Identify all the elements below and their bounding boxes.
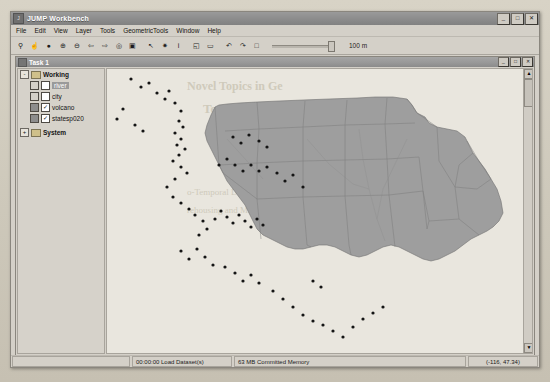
previous-view-icon[interactable]: ⇦ [84, 39, 97, 52]
zoom-slider[interactable] [272, 41, 334, 50]
states-polygon-layer [205, 97, 503, 261]
task-close-button[interactable]: ✕ [522, 57, 533, 67]
redo-icon[interactable]: ↷ [236, 39, 249, 52]
scroll-thumb[interactable] [524, 79, 533, 107]
menu-geometrictools[interactable]: GeometricTools [122, 27, 169, 34]
app-icon: J [13, 13, 24, 24]
zoom-slider-track [272, 45, 334, 48]
layer-checkbox[interactable]: ✓ [41, 103, 50, 112]
next-view-icon[interactable]: ⇨ [98, 39, 111, 52]
menu-window[interactable]: Window [175, 27, 200, 34]
zoom-slider-knob[interactable] [328, 41, 335, 52]
layer-item-volcano[interactable]: ✓ volcano [18, 102, 104, 113]
menu-file[interactable]: File [15, 27, 27, 34]
task-titlebar[interactable]: Task 1 _ □ ✕ [16, 57, 534, 67]
expander-icon[interactable]: + [20, 128, 29, 137]
expander-icon[interactable]: - [20, 70, 29, 79]
tree-category-label: Working [43, 71, 69, 78]
zoom-to-layer-icon[interactable]: ▣ [126, 39, 139, 52]
task-body: - Working river city ✓ volc [16, 67, 534, 355]
layer-item-city[interactable]: city [18, 91, 104, 102]
map-graphic[interactable] [107, 69, 531, 354]
feature-info-icon[interactable]: i [172, 39, 185, 52]
task-window: Task 1 _ □ ✕ - Working river [15, 56, 535, 358]
close-button[interactable]: ✕ [525, 13, 538, 25]
new-layer-icon[interactable]: □ [250, 39, 263, 52]
map-canvas[interactable]: Novel Topics in Ge Temporal OLAP o-Tempo… [106, 68, 533, 354]
task-icon [18, 58, 27, 67]
layer-tree-panel[interactable]: - Working river city ✓ volc [17, 68, 105, 354]
status-coordinates: (-116, 47.34) [468, 356, 538, 367]
folder-icon [31, 71, 41, 79]
app-window-controls: _ □ ✕ [497, 13, 538, 25]
task-window-controls: _ □ ✕ [498, 57, 533, 67]
tree-category-system[interactable]: + System [18, 127, 104, 138]
select-feature-icon[interactable]: ↖ [144, 39, 157, 52]
folder-icon [31, 129, 41, 137]
task-title: Task 1 [29, 59, 498, 66]
layer-label: volcano [52, 104, 74, 111]
status-task-progress: 00:00:00 Load Dataset(s) [132, 356, 232, 367]
zoom-in-icon[interactable]: ⊕ [56, 39, 69, 52]
zoom-out-icon[interactable]: ⊖ [70, 39, 83, 52]
zoom-to-full-extent-icon[interactable]: ● [42, 39, 55, 52]
layer-swatch-icon [30, 114, 39, 123]
layer-checkbox[interactable] [41, 92, 50, 101]
layer-checkbox[interactable] [41, 81, 50, 90]
statusbar: 00:00:00 Load Dataset(s) 63 MB Committed… [11, 355, 539, 367]
scale-label: 100 m [349, 42, 367, 49]
status-memory: 63 MB Committed Memory [234, 356, 466, 367]
draw-rectangle-icon[interactable]: ◱ [190, 39, 203, 52]
layer-item-river[interactable]: river [18, 80, 104, 91]
toolbar: ⚲ ☝ ● ⊕ ⊖ ⇦ ⇨ ◎ ▣ ↖ ✷ i ◱ ▭ ↶ ↷ □ 100 m [11, 37, 539, 55]
menu-tools[interactable]: Tools [99, 27, 116, 34]
maximize-button[interactable]: □ [511, 13, 524, 25]
zoom-tool-icon[interactable]: ⚲ [14, 39, 27, 52]
layer-label: river [52, 82, 69, 89]
scroll-down-arrow[interactable]: ▼ [524, 343, 533, 353]
map-vertical-scrollbar[interactable]: ▲ ▼ [523, 69, 532, 353]
select-features-tool-icon[interactable]: ✷ [158, 39, 171, 52]
undo-icon[interactable]: ↶ [222, 39, 235, 52]
layer-swatch-icon [30, 103, 39, 112]
layer-label: statesp020 [52, 115, 84, 122]
menu-view[interactable]: View [53, 27, 69, 34]
menu-help[interactable]: Help [206, 27, 221, 34]
application-window: J JUMP Workbench _ □ ✕ File Edit View La… [10, 11, 540, 368]
status-spacer-left [12, 356, 130, 367]
layer-swatch-icon [30, 81, 39, 90]
menubar: File Edit View Layer Tools GeometricTool… [11, 25, 539, 37]
minimize-button[interactable]: _ [497, 13, 510, 25]
tree-category-working[interactable]: - Working [18, 69, 104, 80]
tree-category-label: System [43, 129, 66, 136]
task-maximize-button[interactable]: □ [510, 57, 521, 67]
layer-swatch-icon [30, 92, 39, 101]
task-minimize-button[interactable]: _ [498, 57, 509, 67]
layer-checkbox[interactable]: ✓ [41, 114, 50, 123]
menu-layer[interactable]: Layer [75, 27, 93, 34]
menu-edit[interactable]: Edit [33, 27, 46, 34]
app-titlebar[interactable]: J JUMP Workbench _ □ ✕ [11, 12, 539, 25]
layer-label: city [52, 93, 62, 100]
scroll-up-arrow[interactable]: ▲ [524, 69, 533, 79]
pan-tool-icon[interactable]: ☝ [28, 39, 41, 52]
zoom-to-selected-icon[interactable]: ◎ [112, 39, 125, 52]
layer-item-statesp020[interactable]: ✓ statesp020 [18, 113, 104, 124]
app-title: JUMP Workbench [27, 15, 497, 22]
draw-line-icon[interactable]: ▭ [204, 39, 217, 52]
